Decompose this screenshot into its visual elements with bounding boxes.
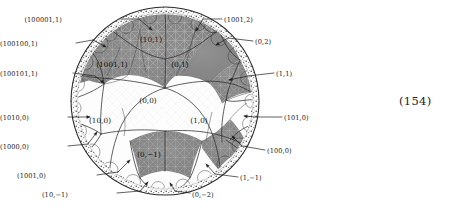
callout-10-minus1: (10,−1) [0, 192, 68, 199]
callout-1010-0: (1010,0) [0, 115, 15, 122]
hyperbolic-disk-figure [0, 0, 452, 216]
poincare-disk [65, 6, 265, 199]
callout-100101-1: (100101,1) [0, 71, 11, 78]
callout-1000-0: (1000,0) [0, 144, 15, 151]
callout-1-minus1: (1,−1) [240, 175, 262, 182]
region-1001-1: (1001,1) [96, 61, 128, 68]
page-number: (154) [399, 94, 431, 108]
callout-1-1: (1,1) [276, 71, 292, 78]
callout-100100-1: (100100,1) [0, 41, 14, 48]
callout-100001-1: (100001,1) [0, 17, 62, 24]
callout-0-minus2: (0,−2) [192, 192, 214, 199]
callout-1001-0: (1001,0) [0, 173, 46, 180]
callout-0-2: (0,2) [255, 39, 271, 46]
callout-10-minus1-leader [117, 191, 140, 193]
callout-1001-2: (1001,2) [224, 17, 253, 24]
callout-101-0: (101,0) [284, 115, 309, 122]
callout-100100-1-leader [76, 40, 93, 43]
callout-100-0: (100,0) [267, 148, 292, 155]
region-1-0: (1,0) [190, 117, 208, 124]
region-10-1: (10,1) [140, 36, 162, 43]
region-0-1: (0,1) [171, 61, 189, 68]
region-10-0: (10,0) [89, 117, 111, 124]
region-0-0: (0,0) [139, 97, 157, 104]
figure-root: (10,1)(1001,1)(0,1)(0,0)(10,0)(1,0)(0,−1… [0, 0, 452, 216]
region-0-minus1: (0,−1) [137, 151, 161, 158]
